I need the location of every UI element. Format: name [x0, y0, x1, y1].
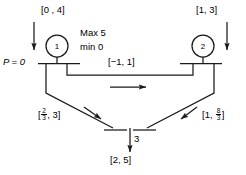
process-flow-diagram: 1 2 [0 , 4] [1, 3] Max 5 min 0 P = 0 [−1…	[0, 0, 246, 175]
node-1-label: 1	[46, 42, 68, 51]
outlet-stream-label: 3	[134, 134, 139, 145]
flow-network-graphic	[0, 0, 246, 175]
capacity-min-label: min 0	[80, 40, 103, 54]
inlet-left-bounds-label: [0 , 4]	[41, 5, 65, 16]
right-branch-fraction-denominator: 3	[216, 115, 222, 122]
left-branch-bounds-label: [23, 3]	[38, 108, 60, 122]
node-2-label: 2	[192, 42, 214, 51]
right-branch-bracket-open: [1,	[202, 109, 215, 120]
pressure-label: P = 0	[3, 57, 25, 68]
outlet-bounds-label: [2, 5]	[110, 155, 131, 166]
left-branch-bracket-rest: , 3]	[47, 109, 60, 120]
crossflow-bounds-label: [−1, 1]	[108, 57, 135, 68]
capacity-max-label: Max 5	[80, 26, 106, 40]
inlet-right-bounds-label: [1, 3]	[196, 5, 217, 16]
right-branch-bounds-label: [1, 83]	[202, 108, 224, 122]
right-branch-bracket-close: ]	[222, 109, 225, 120]
left-branch-fraction: 23	[41, 108, 47, 122]
left-branch-fraction-denominator: 3	[41, 115, 47, 122]
right-branch-fraction: 83	[216, 108, 222, 122]
